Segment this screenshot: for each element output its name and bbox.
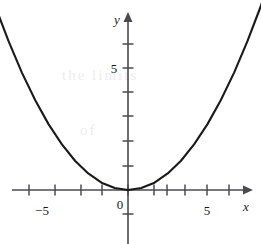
y-axis-arrowhead (124, 12, 133, 22)
watermark-line-2: of (80, 122, 97, 138)
x-tick-label-minus-5: −5 (35, 203, 49, 218)
watermark-line-1: the limits (62, 67, 138, 83)
y-axis-label: y (112, 12, 120, 27)
x-axis-label: x (242, 199, 249, 214)
y-tick-label-5: 5 (111, 61, 118, 76)
x-tick-label-5: 5 (204, 203, 211, 218)
graph-canvas: the limits of x −5 5 (0, 0, 261, 244)
coordinate-plane-figure: the limits of x −5 5 (0, 0, 261, 244)
x-axis-arrowhead (243, 186, 253, 195)
parabola-curve (0, 0, 261, 190)
watermark-layer: the limits of (62, 67, 138, 138)
origin-label: 0 (117, 197, 124, 212)
